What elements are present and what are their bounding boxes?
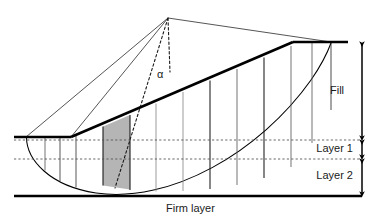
alpha-angle-label: α bbox=[157, 69, 163, 80]
ground-surface-group bbox=[14, 42, 348, 137]
alpha-angle-group bbox=[115, 18, 170, 188]
firm-layer-label: Firm layer bbox=[166, 203, 215, 214]
layer2-label: Layer 2 bbox=[303, 170, 353, 181]
slope-stability-diagram: α Fill Layer 1 Layer 2 Firm layer bbox=[0, 0, 385, 224]
fill-label: Fill bbox=[330, 85, 344, 96]
radius-lines-group bbox=[26, 18, 331, 137]
layer1-label: Layer 1 bbox=[303, 143, 353, 154]
diagram-canvas bbox=[0, 0, 385, 224]
slip-circle-group bbox=[27, 43, 332, 194]
